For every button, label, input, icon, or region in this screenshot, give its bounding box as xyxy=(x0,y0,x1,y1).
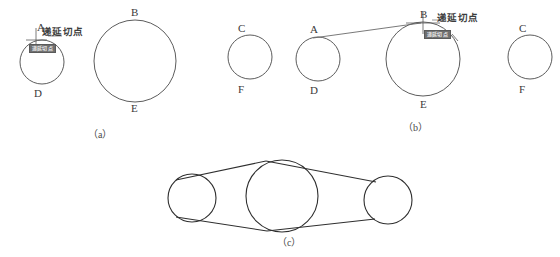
panel-b-circle-ad xyxy=(296,37,340,81)
panel-c-tangent-lower-right xyxy=(267,219,375,231)
panel-a-label-f: F xyxy=(238,84,244,95)
panel-a-tooltip: 递延切点 xyxy=(29,44,56,53)
panel-a-label-d: D xyxy=(34,88,42,99)
panel-c-caption: （c） xyxy=(277,238,301,248)
panel-a-label-e: E xyxy=(131,103,138,114)
panel-c-circle-right xyxy=(364,176,412,224)
panel-b-annotation: 递延切点 xyxy=(437,13,478,23)
panel-b-label-d: D xyxy=(310,85,318,96)
panel-c-tangent-upper-left xyxy=(176,161,266,180)
panel-a-label-b: B xyxy=(131,7,138,18)
panel-b-label-e: E xyxy=(420,99,427,110)
panel-b-label-b: B xyxy=(420,9,427,20)
panel-a-circle-be xyxy=(94,20,176,102)
panel-b-label-c: C xyxy=(519,23,526,34)
panel-a-circle-cf xyxy=(228,35,272,79)
panel-c-tangent-lower-left xyxy=(176,217,267,231)
panel-b-caption: （b） xyxy=(403,123,428,133)
panel-b-tangent-line xyxy=(313,23,421,38)
panel-b-group xyxy=(296,12,552,96)
panel-b-tooltip: 递延切点 xyxy=(424,30,451,39)
panel-c-group xyxy=(168,160,412,232)
panel-a-annotation: 递延切点 xyxy=(42,27,83,37)
panel-c-circle-middle xyxy=(246,160,318,232)
panel-b-label-f: F xyxy=(519,84,525,95)
panel-b-label-a: A xyxy=(310,24,318,35)
panel-c-tangent-upper-right xyxy=(266,161,376,182)
panel-a-label-c: C xyxy=(238,23,245,34)
panel-a-caption: （a） xyxy=(88,130,112,140)
panel-c-circle-left xyxy=(168,174,216,222)
figure-stage: A D B E C F 递延切点 递延切点 （a） A D B E C F 递延… xyxy=(0,0,560,257)
panel-b-circle-cf xyxy=(508,35,552,79)
diagram-canvas xyxy=(0,0,560,257)
